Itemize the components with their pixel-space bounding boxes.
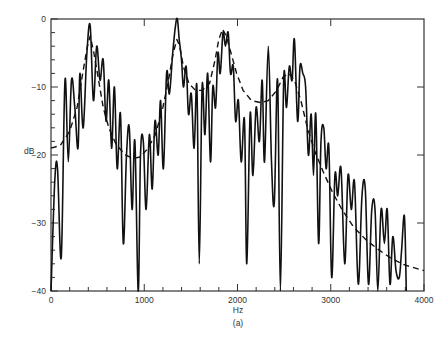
x-tick-label: 1000	[135, 295, 154, 305]
x-tick-label: 2000	[228, 295, 247, 305]
y-axis-label: dB	[24, 146, 35, 156]
harmonic-spectrum-curve	[51, 18, 406, 291]
figure-caption: (a)	[233, 318, 244, 328]
y-tick-label: −40	[32, 286, 47, 296]
y-tick-label: 0	[41, 14, 46, 24]
plot-frame	[51, 19, 424, 291]
plot-axes	[51, 19, 424, 291]
envelope-curve	[51, 29, 424, 270]
y-tick-label: −10	[32, 82, 47, 92]
spectrum-chart: 010002000300040000−10−20−30−40 dB Hz (a)	[0, 0, 448, 340]
data-series	[51, 18, 424, 291]
x-tick-label: 4000	[415, 295, 434, 305]
x-axis-label: Hz	[233, 305, 243, 315]
x-tick-label: 0	[49, 295, 54, 305]
x-tick-label: 3000	[321, 295, 340, 305]
y-tick-label: −30	[32, 218, 47, 228]
